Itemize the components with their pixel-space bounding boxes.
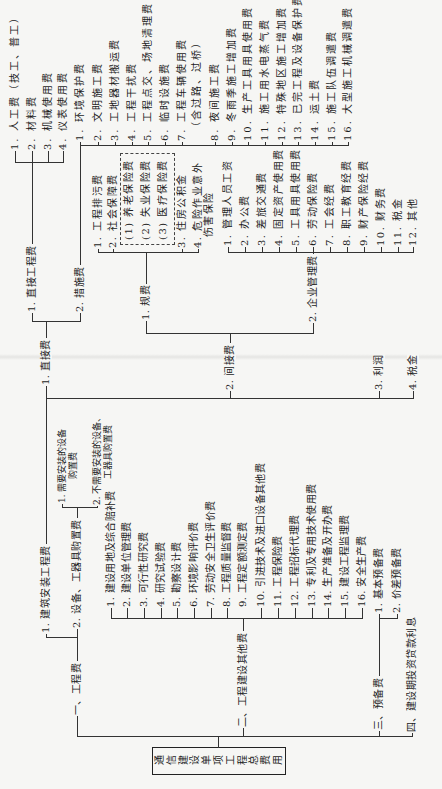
reserve-fee-node: 三、预备费 <box>373 677 385 732</box>
reserve-fee-item: 2. 价差预备费 <box>391 547 403 614</box>
tree-connector <box>379 390 380 399</box>
other-fee-node: 二、工程建设其他费 <box>237 632 249 729</box>
management-item: 12. 其他 <box>407 197 419 247</box>
measures-item: 7. 工程车辆使用费 <box>176 37 188 142</box>
tree-connector <box>278 608 279 619</box>
tree-connector <box>132 142 133 146</box>
other-fee-item: 14. 生产准备及开办费 <box>322 503 334 608</box>
measures-item: 4. 工程干扰费 <box>126 61 138 142</box>
equipment-item-line2: 购置费 <box>67 451 79 480</box>
other-fee-item: 8. 工程质量监督费 <box>221 520 233 608</box>
tree-connector <box>227 608 228 619</box>
tree-connector <box>161 608 162 619</box>
tree-connector <box>113 249 114 253</box>
tree-connector <box>413 390 414 399</box>
direct-cost-node: 1. 直接费 <box>40 338 52 386</box>
other-fee-item: 15. 建设工程监理费 <box>339 514 351 608</box>
tree-connector <box>32 151 33 163</box>
tree-connector <box>80 142 81 146</box>
measures-item-line2: （含过路、过桥） <box>191 35 203 133</box>
other-fee-item: 16. 安全生产费 <box>356 534 368 608</box>
engineering-fee-node: 一、工程费 <box>71 662 83 717</box>
direct-engineering-item: 2. 材料费 <box>26 94 38 151</box>
measures-item: 1. 环境保护费 <box>74 61 86 142</box>
tree-connector <box>127 608 128 619</box>
tree-connector <box>111 618 362 619</box>
management-item: 11. 税金 <box>392 197 404 247</box>
measures-item: 6. 临时设施费 <box>159 61 171 142</box>
tree-connector <box>245 247 246 253</box>
other-fee-item: 3. 可行性研究费 <box>138 531 150 608</box>
tree-connector <box>348 142 349 146</box>
management-item: 6. 劳动保险费 <box>307 170 319 247</box>
measures-item: 13. 已完工程及设备保护费 <box>292 0 304 142</box>
tree-connector <box>46 637 77 638</box>
tree-connector <box>265 142 266 146</box>
tree-connector <box>397 614 398 619</box>
tree-connector <box>398 247 399 253</box>
tree-connector <box>228 247 229 253</box>
tree-connector <box>177 608 178 619</box>
loan-interest-node: 四、建设期投资贷款利息 <box>406 616 418 734</box>
tree-connector <box>347 247 348 253</box>
other-fee-item: 4. 研究试验费 <box>155 541 167 608</box>
measures-item: 5. 工程点交、场地清理费 <box>142 1 154 142</box>
tree-connector <box>194 608 195 619</box>
regulatory-item-line2: 伤害保险 <box>203 190 215 238</box>
indirect-cost-node: 2. 间接费 <box>224 343 236 391</box>
other-fee-item: 11. 工程保险费 <box>272 534 284 608</box>
cost-structure-tree: 通信建设单项工程总费用 一、工程费 1. 建筑安装工程费 2. 设备、工器具购置… <box>0 0 442 789</box>
tree-connector <box>32 321 80 322</box>
tree-connector <box>345 608 346 619</box>
tree-connector <box>328 608 329 619</box>
other-fee-item: 5. 勘察设计费 <box>171 541 183 608</box>
management-item: 5. 工具用具使用费 <box>290 147 302 247</box>
measures-item: 2. 文明施工费 <box>92 61 104 142</box>
tree-connector <box>63 151 64 163</box>
tree-connector <box>215 142 216 146</box>
direct-engineering-item: 1. 人工费（技工、普工） <box>9 10 21 151</box>
measures-item: 16. 大型施工机械调遣费 <box>342 5 354 142</box>
other-fee-item: 9. 工程定额测定费 <box>237 520 249 608</box>
other-fee-item: 7. 劳动安全卫生评价费 <box>205 500 217 608</box>
management-item: 8. 职工教育经费 <box>341 159 353 247</box>
direct-engineering-item: 3. 机械使用费 <box>42 70 54 151</box>
tree-connector <box>62 504 63 508</box>
management-item: 7. 工会经费 <box>324 182 336 247</box>
tree-connector <box>413 247 414 253</box>
measures-item: 10. 生产工具用具使用费 <box>242 5 254 142</box>
social-security-subitem: (3) 医疗保险费 <box>157 158 169 241</box>
construction-install-node: 1. 建筑安装工程费 <box>40 544 52 634</box>
measures-item: 11. 施工用水电蒸气费 <box>259 17 271 142</box>
measures-item: 14. 运土费 <box>309 77 321 142</box>
tree-connector <box>248 142 249 146</box>
enterprise-management-node: 2. 企业管理费 <box>307 254 319 323</box>
tree-connector <box>182 142 183 146</box>
tree-connector <box>362 608 363 619</box>
tree-connector <box>228 252 413 253</box>
tree-connector <box>62 507 97 508</box>
management-item: 1. 管理人员工资 <box>222 159 234 247</box>
regulatory-item: 2. 社会保障费 <box>107 172 119 249</box>
tree-connector <box>262 247 263 253</box>
tree-connector <box>98 249 99 253</box>
tree-connector <box>165 142 166 146</box>
tree-connector <box>77 736 412 737</box>
equipment-item-line2: 工器具购置费 <box>102 424 114 480</box>
tree-connector <box>211 608 212 619</box>
regulatory-item: 1. 工程排污费 <box>92 172 104 249</box>
measures-item: 12. 特殊地区施工增加费 <box>276 5 288 142</box>
tree-connector <box>15 151 16 163</box>
tree-connector <box>282 142 283 146</box>
tree-connector <box>381 247 382 253</box>
tree-connector <box>146 333 313 334</box>
tree-connector <box>315 142 316 146</box>
social-security-subitem: (2) 失业保险费 <box>140 158 152 241</box>
tree-connector <box>182 249 183 253</box>
tax-node: 4. 税金 <box>407 354 419 391</box>
measures-item: 9. 冬雨季施工增加费 <box>226 25 238 142</box>
direct-engineering-item: 4. 仪表使用费 <box>57 70 69 151</box>
tree-connector <box>332 142 333 146</box>
regulatory-fees-node: 1. 规费 <box>140 284 152 321</box>
other-fee-item: 1. 建设用地及综合赔补费 <box>105 489 117 608</box>
